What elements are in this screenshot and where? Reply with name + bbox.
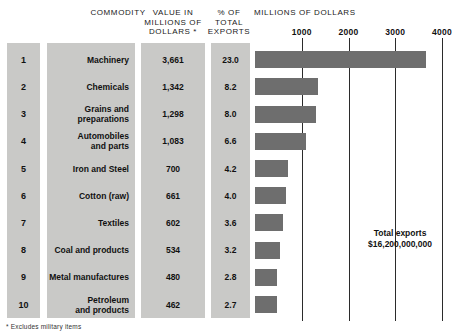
row-percent: 2.7	[211, 300, 250, 310]
table-row: 6Cotton (raw)6614.0	[0, 182, 459, 210]
axis-tick-label-1000: 1000	[285, 27, 319, 37]
axis-title: MILLIONS OF DOLLARS	[254, 8, 374, 18]
bar-chemicals	[255, 78, 318, 95]
bar-textiles	[255, 214, 283, 231]
row-value: 480	[141, 272, 205, 282]
row-percent: 6.6	[211, 136, 250, 146]
row-rank: 8	[7, 245, 40, 255]
row-value: 462	[141, 300, 205, 310]
row-percent: 8.0	[211, 109, 250, 119]
column-header-value: VALUE IN MILLIONS OF DOLLARS *	[141, 8, 205, 37]
row-value: 661	[141, 191, 205, 201]
row-rank: 4	[7, 136, 40, 146]
table-row: 5Iron and Steel7004.2	[0, 155, 459, 183]
row-rank: 9	[7, 272, 40, 282]
row-commodity-label: Cotton (raw)	[47, 191, 129, 201]
total-exports-label: Total exports	[346, 228, 454, 239]
bar-grains-and-preparations	[255, 106, 316, 123]
row-commodity-label: Petroleumand products	[47, 295, 129, 315]
table-row: 2Chemicals1,3428.2	[0, 73, 459, 101]
axis-tick-label-4000: 4000	[425, 27, 459, 37]
row-commodity-label: Coal and products	[47, 245, 129, 255]
axis-tick-label-2000: 2000	[332, 27, 366, 37]
row-percent: 4.2	[211, 164, 250, 174]
row-commodity-label: Machinery	[47, 55, 129, 65]
row-value: 602	[141, 218, 205, 228]
row-rank: 3	[7, 109, 40, 119]
footnote: * Excludes military items	[6, 323, 81, 330]
table-row: 10Petroleumand products4622.7	[0, 291, 459, 319]
bar-petroleum-and-products	[255, 296, 277, 313]
row-commodity-label: Iron and Steel	[47, 164, 129, 174]
row-commodity-label: Grains andpreparations	[47, 104, 129, 124]
total-exports-amount: $16,200,000,000	[346, 239, 454, 250]
row-value: 1,083	[141, 136, 205, 146]
total-exports-annotation: Total exports $16,200,000,000	[346, 228, 454, 250]
table-row: 9Metal manufactures4802.8	[0, 264, 459, 292]
row-commodity-label: Metal manufactures	[47, 272, 129, 282]
row-value: 534	[141, 245, 205, 255]
row-percent: 3.6	[211, 218, 250, 228]
row-value: 1,298	[141, 109, 205, 119]
row-rank: 5	[7, 164, 40, 174]
axis-tick-label-3000: 3000	[378, 27, 412, 37]
bar-iron-and-steel	[255, 160, 288, 177]
row-commodity-label: Textiles	[47, 218, 129, 228]
row-commodity-label: Automobilesand parts	[47, 131, 129, 151]
row-percent: 4.0	[211, 191, 250, 201]
row-rank: 6	[7, 191, 40, 201]
column-header-percent: % OF TOTAL EXPORTS	[207, 8, 251, 37]
bar-cotton-raw-	[255, 187, 286, 204]
table-row: 3Grains andpreparations1,2988.0	[0, 100, 459, 128]
row-commodity-label: Chemicals	[47, 82, 129, 92]
row-rank: 10	[7, 300, 40, 310]
row-value: 1,342	[141, 82, 205, 92]
row-value: 700	[141, 164, 205, 174]
row-percent: 2.8	[211, 272, 250, 282]
exports-bar-chart: COMMODITY VALUE IN MILLIONS OF DOLLARS *…	[0, 0, 459, 333]
bar-coal-and-products	[255, 242, 280, 259]
row-value: 3,661	[141, 55, 205, 65]
row-rank: 7	[7, 218, 40, 228]
bar-automobiles-and-parts	[255, 133, 306, 150]
bar-machinery	[255, 51, 426, 68]
bar-metal-manufactures	[255, 269, 277, 286]
row-percent: 8.2	[211, 82, 250, 92]
row-rank: 1	[7, 55, 40, 65]
row-percent: 3.2	[211, 245, 250, 255]
row-rank: 2	[7, 82, 40, 92]
table-row: 4Automobilesand parts1,0836.6	[0, 128, 459, 156]
row-percent: 23.0	[211, 55, 250, 65]
